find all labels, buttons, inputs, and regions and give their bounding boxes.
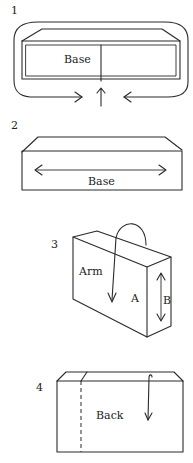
arm-top-face (73, 231, 171, 267)
panel-4-number: 4 (36, 381, 43, 394)
panel-1-number: 1 (11, 4, 18, 17)
label-arm: Arm (78, 265, 103, 278)
cushion-assembly-diagram: 1 Base 2 Base 3 (0, 0, 193, 463)
label-base-2: Base (88, 175, 115, 188)
wrap-arrow-curve (112, 224, 146, 300)
panel-3: 3 Arm A B (51, 224, 171, 337)
panel-4: 4 Back (36, 372, 183, 452)
label-b: B (163, 294, 171, 307)
base-top-face (22, 137, 182, 152)
base-top-face (22, 29, 180, 41)
panel-3-number: 3 (51, 238, 58, 251)
arrow-up-icon (97, 88, 105, 106)
label-a: A (130, 292, 140, 305)
panel-2-number: 2 (11, 119, 18, 132)
label-base-1: Base (64, 53, 91, 66)
panel-1: 1 Base (11, 4, 188, 106)
back-top-face (57, 372, 183, 381)
panel-2: 2 Base (11, 119, 182, 190)
label-back: Back (96, 409, 124, 422)
top-seam (81, 372, 87, 381)
